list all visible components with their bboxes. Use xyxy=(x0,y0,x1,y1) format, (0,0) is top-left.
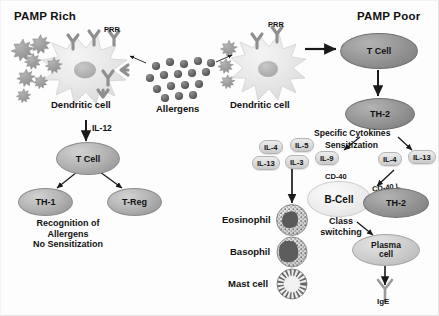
mast-cell-label: Mast cell xyxy=(228,278,268,289)
outcome-line-3: No Sensitization xyxy=(13,239,123,250)
eosinophil-label: Eosinophil xyxy=(222,214,271,225)
cytokine-il4-right: IL-4 xyxy=(378,152,402,166)
plasma-cell: Plasma cell xyxy=(352,234,420,266)
dendritic-cell-label-right: Dendritic cell xyxy=(230,99,290,110)
ige-label: IgE xyxy=(377,297,389,306)
pamp-cluster-right xyxy=(218,40,237,88)
allergens-label: Allergens xyxy=(156,103,199,114)
basophil-label: Basophil xyxy=(230,246,270,257)
specific-cytokines-label: Specific Cytokines xyxy=(314,128,390,138)
arrow-cytokines-right xyxy=(398,137,412,150)
cytokine-il5: IL-5 xyxy=(290,138,314,152)
t-cell-left: T Cell xyxy=(56,142,120,175)
allergen-particles xyxy=(146,57,215,102)
eosinophil-graphic xyxy=(277,205,308,236)
th2-cell-top: TH-2 xyxy=(345,98,415,130)
cd40-label: CD-40 xyxy=(325,172,347,181)
class-switching-text: Class switching xyxy=(318,216,364,237)
heading-pamp-rich: PAMP Rich xyxy=(14,10,76,22)
cytokine-il9: IL-9 xyxy=(315,151,339,165)
dendritic-cell-right-graphic xyxy=(231,34,306,100)
treg-cell: T-Reg xyxy=(107,188,162,216)
left-outcome-text: Recognition of Allergens No Sensitizatio… xyxy=(13,218,123,250)
th2-cell-right: TH-2 xyxy=(363,188,429,218)
class-switching-line-1: Class xyxy=(318,216,364,227)
outcome-line-1: Recognition of xyxy=(13,218,123,229)
basophil-graphic xyxy=(277,237,307,267)
outcome-line-2: Allergens xyxy=(13,229,123,240)
cytokine-il13-left: IL-13 xyxy=(252,156,280,170)
arrow-tcell-to-th1 xyxy=(57,172,77,188)
arrow-allergen-to-left-dc xyxy=(130,56,146,63)
il12-label: IL-12 xyxy=(92,123,112,133)
th1-cell: TH-1 xyxy=(18,188,73,216)
b-cell: B-Cell xyxy=(307,181,371,217)
class-switching-line-2: switching xyxy=(318,227,364,238)
sensitization-label: Sensitization xyxy=(325,140,378,150)
arrow-tcell-to-treg xyxy=(100,172,122,188)
t-cell-right: T Cell xyxy=(340,33,418,69)
cytokine-il13-right: IL-13 xyxy=(408,150,436,164)
plasma-cell-line-2: cell xyxy=(379,250,393,260)
prr-label-left: PRR xyxy=(104,25,120,34)
dendritic-cell-label-left: Dendritic cell xyxy=(51,99,111,110)
prr-label-right: PRR xyxy=(268,20,284,29)
cytokine-il3: IL-3 xyxy=(285,155,309,169)
heading-pamp-poor: PAMP Poor xyxy=(357,10,420,22)
mast-cell-graphic xyxy=(277,269,307,299)
cytokine-il4-left: IL-4 xyxy=(259,140,283,154)
